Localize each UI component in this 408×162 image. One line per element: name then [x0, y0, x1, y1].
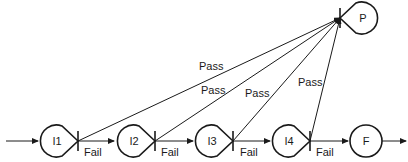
- node-label-f: F: [363, 135, 370, 147]
- edge-i3-p: Pass: [233, 18, 340, 141]
- node-i2: I2: [117, 125, 155, 157]
- edge-label-fail-3: Fail: [240, 146, 258, 158]
- edge-i1-i2: Fail: [78, 141, 114, 158]
- node-label-i1: I1: [52, 135, 61, 147]
- edge-i4-p: Pass: [298, 18, 340, 141]
- edge-label-pass-3: Pass: [245, 87, 270, 99]
- edge-i2-i3: Fail: [155, 141, 193, 158]
- edge-i4-f: Fail: [310, 141, 348, 158]
- edge-label-pass-2: Pass: [201, 84, 226, 96]
- edge-label-fail-2: Fail: [161, 146, 179, 158]
- edge-i3-i4: Fail: [233, 141, 270, 158]
- node-label-i3: I3: [207, 135, 216, 147]
- edge-label-pass-4: Pass: [298, 76, 323, 88]
- node-i1: I1: [40, 125, 78, 157]
- node-label-i2: I2: [129, 135, 138, 147]
- edge-label-fail-4: Fail: [316, 146, 334, 158]
- node-label-i4: I4: [284, 135, 293, 147]
- node-label-p: P: [359, 12, 366, 24]
- edge-label-pass-1: Pass: [199, 60, 224, 72]
- node-p: P: [340, 2, 378, 34]
- node-i3: I3: [195, 125, 233, 157]
- node-i4: I4: [272, 125, 310, 157]
- edge-label-fail-1: Fail: [84, 146, 102, 158]
- node-f: F: [350, 125, 382, 157]
- flow-diagram: Fail Fail Fail Fail Pass Pass Pass Pass …: [0, 0, 408, 162]
